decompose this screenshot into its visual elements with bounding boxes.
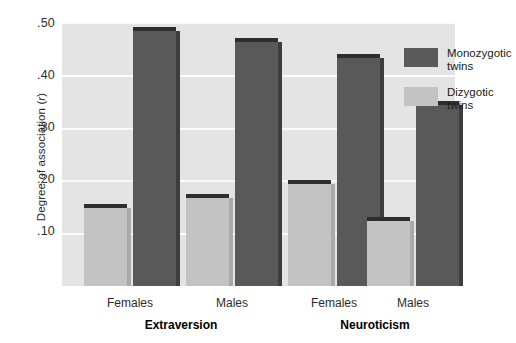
legend-label-line1: Monozygotic [447,47,512,60]
bar-side [127,208,131,286]
bar-side [278,42,282,286]
x-tick-label-extraversion-males: Males [187,296,277,310]
bar-body [186,198,229,286]
bar-monozygotic-extraversion-males [235,38,278,286]
bar-dizygotic-neuroticism-males [367,217,410,286]
bar-side [229,198,233,286]
x-group-label-extraversion: Extraversion [91,318,271,332]
bar-dizygotic-extraversion-males [186,194,229,286]
legend-label-line1: Dizygotic [447,86,494,99]
gridline-50 [62,22,455,24]
y-tick-label-40: .40 [3,68,55,82]
legend-item-dizygotic: Dizygotic twins [404,86,516,112]
bar-dizygotic-extraversion-females [84,204,127,286]
x-group-label-neuroticism: Neuroticism [285,318,465,332]
y-tick-label-20: .20 [3,172,55,186]
bar-side [410,221,414,286]
x-tick-label-neuroticism-males: Males [368,296,458,310]
x-tick-label-extraversion-females: Females [85,296,175,310]
y-axis-tick-labels: .50 .40 .30 .20 .10 [0,0,62,343]
legend-label-line2: twins [447,99,494,112]
bar-body [288,184,331,286]
chart-legend: Monozygotic twins Dizygotic twins [404,47,516,125]
y-tick-label-30: .30 [3,120,55,134]
legend-item-monozygotic: Monozygotic twins [404,47,516,73]
bar-body [235,42,278,286]
legend-label-monozygotic: Monozygotic twins [447,47,512,73]
bar-side [176,31,180,286]
bar-monozygotic-extraversion-females [133,27,176,286]
bar-body [133,31,176,286]
plot-area: Monozygotic twins Dizygotic twins [62,22,455,286]
y-tick-label-10: .10 [3,224,55,238]
bar-side [459,105,463,286]
bar-body [416,105,459,286]
x-tick-label-neuroticism-females: Females [289,296,379,310]
legend-label-line2: twins [447,60,512,73]
bar-body [367,221,410,286]
legend-swatch-dizygotic [404,87,438,106]
legend-swatch-monozygotic [404,48,438,67]
bar-monozygotic-neuroticism-males [416,101,459,286]
bar-dizygotic-neuroticism-females [288,180,331,286]
legend-label-dizygotic: Dizygotic twins [447,86,494,112]
y-tick-label-50: .50 [3,16,55,30]
bar-side [331,184,335,286]
bar-body [84,208,127,286]
